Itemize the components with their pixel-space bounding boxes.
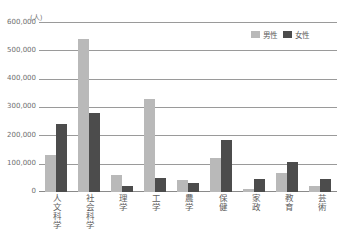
bar xyxy=(56,124,67,192)
x-axis-label: 人文科学 xyxy=(39,194,72,243)
y-tick-300000: 300,000 xyxy=(7,103,36,110)
x-axis-label: 家政 xyxy=(238,194,271,243)
bar xyxy=(320,179,331,192)
bar-group xyxy=(205,22,238,192)
legend-swatch-icon xyxy=(283,31,292,38)
legend-label: 男性 xyxy=(263,29,277,40)
bar xyxy=(45,155,56,192)
legend-item[interactable]: 男性 xyxy=(251,29,277,40)
x-axis-label-text: 理学 xyxy=(117,194,126,212)
bar xyxy=(111,175,122,192)
x-axis-label-text: 家政 xyxy=(250,194,259,212)
y-tick-200000: 200,000 xyxy=(7,132,36,139)
bar-group xyxy=(238,22,271,192)
bar xyxy=(309,186,320,192)
bar xyxy=(89,113,100,192)
y-tick-0: 0 xyxy=(32,188,36,195)
x-axis-label-text: 保健 xyxy=(217,194,226,212)
bar xyxy=(188,183,199,192)
legend-label: 女性 xyxy=(295,29,309,40)
bar xyxy=(210,158,221,192)
bar-group xyxy=(171,22,204,192)
bar xyxy=(243,189,254,192)
y-tick-500000: 500,000 xyxy=(7,47,36,54)
bar xyxy=(155,178,166,192)
bar xyxy=(221,140,232,192)
bar-group xyxy=(138,22,171,192)
x-axis-label: 教育 xyxy=(271,194,304,243)
y-tick-400000: 400,000 xyxy=(7,75,36,82)
x-axis-label: 工学 xyxy=(138,194,171,243)
x-axis-label-text: 農学 xyxy=(184,194,193,212)
x-axis-label-text: 人文科学 xyxy=(51,194,60,230)
x-axis-label: 農学 xyxy=(171,194,204,243)
y-tick-600000: 600,000 xyxy=(7,19,36,26)
bar-group xyxy=(105,22,138,192)
legend-swatch-icon xyxy=(251,31,260,38)
bar xyxy=(177,180,188,192)
x-axis-label: 芸術 xyxy=(304,194,337,243)
x-axis-label-text: 社会科学 xyxy=(84,194,93,230)
bar-group xyxy=(271,22,304,192)
x-axis-label-text: 工学 xyxy=(150,194,159,212)
x-axis-label: 社会科学 xyxy=(72,194,105,243)
chart-legend: 男性女性 xyxy=(251,29,309,40)
x-axis-category-labels: 人文科学社会科学理学工学農学保健家政教育芸術 xyxy=(39,194,337,243)
bar xyxy=(287,162,298,192)
bar-group xyxy=(72,22,105,192)
y-axis-tick-labels: 600,000 500,000 400,000 300,000 200,000 … xyxy=(0,0,38,243)
bar xyxy=(122,186,133,192)
x-axis-label-text: 芸術 xyxy=(316,194,325,212)
bar xyxy=(78,39,89,192)
bar xyxy=(254,179,265,192)
bar-chart: (人) 600,000 500,000 400,000 300,000 200,… xyxy=(0,0,342,243)
x-axis-label: 理学 xyxy=(105,194,138,243)
legend-item[interactable]: 女性 xyxy=(283,29,309,40)
plot-area xyxy=(39,22,337,192)
bar-group xyxy=(39,22,72,192)
bar xyxy=(144,99,155,193)
x-axis-label-text: 教育 xyxy=(283,194,292,212)
y-tick-100000: 100,000 xyxy=(7,160,36,167)
bar-groups xyxy=(39,22,337,192)
bar-group xyxy=(304,22,337,192)
bar xyxy=(276,173,287,192)
x-axis-label: 保健 xyxy=(205,194,238,243)
